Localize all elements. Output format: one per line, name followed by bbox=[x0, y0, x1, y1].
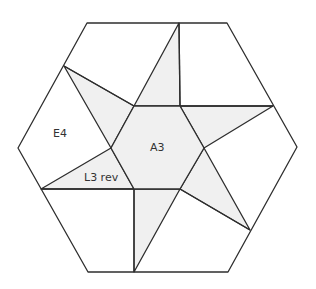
label-l3-rev: L3 rev bbox=[84, 171, 119, 184]
hexagon-star-diagram: E4 A3 L3 rev bbox=[0, 0, 316, 289]
label-a3: A3 bbox=[150, 141, 165, 154]
label-e4: E4 bbox=[53, 127, 67, 140]
